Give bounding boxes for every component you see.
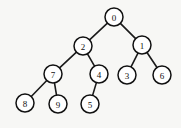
tree-edge-n0-n2 (90, 23, 108, 40)
tree-edge-layer (31, 23, 157, 96)
tree-diagram-canvas: 0217436895 (0, 0, 181, 128)
tree-node-label-3: 3 (125, 71, 130, 81)
tree-node-0[interactable]: 0 (105, 8, 123, 26)
tree-node-1[interactable]: 1 (133, 36, 151, 54)
tree-node-label-0: 0 (112, 13, 117, 23)
tree-node-label-6: 6 (160, 71, 165, 81)
tree-node-7[interactable]: 7 (44, 65, 62, 83)
binary-tree-graphic: 0217436895 (0, 0, 181, 128)
tree-node-5[interactable]: 5 (81, 95, 99, 113)
tree-node-6[interactable]: 6 (153, 66, 171, 84)
tree-edge-n2-n4 (87, 54, 94, 66)
tree-node-layer: 0217436895 (16, 8, 171, 113)
tree-edge-n7-n9 (54, 83, 56, 95)
tree-node-label-9: 9 (56, 100, 61, 110)
tree-node-label-2: 2 (81, 42, 86, 52)
tree-edge-n1-n3 (131, 53, 138, 67)
tree-edge-n2-n7 (60, 52, 77, 68)
tree-edge-n1-n6 (147, 52, 157, 67)
tree-node-9[interactable]: 9 (49, 95, 67, 113)
tree-edge-n4-n5 (93, 83, 97, 96)
tree-node-8[interactable]: 8 (16, 94, 34, 112)
tree-node-2[interactable]: 2 (74, 37, 92, 55)
tree-node-4[interactable]: 4 (90, 65, 108, 83)
tree-node-label-8: 8 (23, 99, 28, 109)
tree-node-label-5: 5 (88, 100, 93, 110)
tree-node-3[interactable]: 3 (118, 66, 136, 84)
tree-node-label-7: 7 (51, 70, 56, 80)
tree-edge-n0-n1 (120, 23, 135, 38)
tree-edge-n7-n8 (31, 80, 46, 96)
tree-node-label-4: 4 (97, 70, 102, 80)
tree-node-label-1: 1 (140, 41, 145, 51)
